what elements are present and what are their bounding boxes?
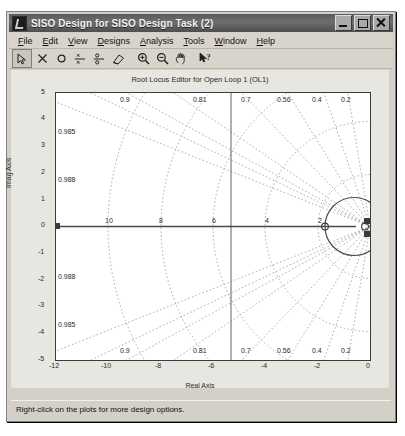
wn-label: 6 xyxy=(212,217,216,224)
damping-label-top: 0.56 xyxy=(277,96,291,103)
damping-label-bottom: 0.2 xyxy=(341,347,351,354)
y-tick-label: -1 xyxy=(38,248,44,255)
menu-label-edit: dit xyxy=(49,36,59,46)
damping-label-left: 0.988 xyxy=(58,176,76,183)
x-tick-label: 0 xyxy=(366,362,370,369)
y-tick-label: 2 xyxy=(41,168,45,175)
root-locus-figure: Root Locus Editor for Open Loop 1 (OL1) … xyxy=(11,70,389,388)
y-tick-label: 3 xyxy=(41,141,45,148)
y-tick-label: -2 xyxy=(38,275,44,282)
open-loop-pole-marker xyxy=(56,223,60,229)
damping-label-bottom: 0.7 xyxy=(241,347,251,354)
damping-label-bottom: 0.9 xyxy=(120,347,130,354)
close-button[interactable] xyxy=(373,15,390,31)
status-bar: Right-click on the plots for more design… xyxy=(11,400,391,417)
wn-label: 10 xyxy=(105,217,113,224)
delete-pole-zero-icon[interactable] xyxy=(109,50,127,67)
zoom-out-icon[interactable] xyxy=(153,50,171,67)
context-help-icon[interactable]: ? xyxy=(197,50,215,67)
damping-label-bottom: 0.81 xyxy=(193,347,207,354)
title-bar: SISO Design for SISO Design Task (2) xyxy=(9,14,393,32)
wn-label: 4 xyxy=(265,217,269,224)
menu-bar: File Edit View Designs Analysis Tools Wi… xyxy=(9,33,393,49)
damping-label-left: 0.988 xyxy=(58,273,76,280)
x-tick-label: -6 xyxy=(208,362,214,369)
add-complex-pole-icon[interactable] xyxy=(71,50,89,67)
menu-label-view: iew xyxy=(74,36,88,46)
menu-item-tools[interactable]: Tools xyxy=(178,35,209,47)
damping-label-top: 0.9 xyxy=(120,96,130,103)
add-real-pole-icon[interactable] xyxy=(33,50,51,67)
open-loop-pole-marker xyxy=(364,231,370,237)
pointer-icon[interactable] xyxy=(12,49,32,68)
menu-label-analysis: nalysis xyxy=(146,36,174,46)
menu-label-help: elp xyxy=(263,36,275,46)
wn-label: 2 xyxy=(318,217,322,224)
add-real-zero-icon[interactable] xyxy=(52,50,70,67)
menu-label-designs: esigns xyxy=(104,36,130,46)
y-tick-label: -4 xyxy=(38,328,44,335)
damping-label-left: 0.985 xyxy=(58,321,76,328)
y-tick-label: 4 xyxy=(41,114,45,121)
chart-title: Root Locus Editor for Open Loop 1 (OL1) xyxy=(11,75,389,84)
siso-design-window: SISO Design for SISO Design Task (2) Fil… xyxy=(6,11,396,422)
damping-label-top: 0.4 xyxy=(312,96,322,103)
y-tick-label: 0 xyxy=(41,221,45,228)
menu-label-tools: ools xyxy=(188,36,205,46)
damping-label-bottom: 0.56 xyxy=(277,347,291,354)
damping-label-bottom: 0.4 xyxy=(312,347,322,354)
menu-item-analysis[interactable]: Analysis xyxy=(135,35,179,47)
x-tick-label: -2 xyxy=(314,362,320,369)
minimize-button[interactable] xyxy=(335,15,352,31)
maximize-button[interactable] xyxy=(354,15,371,31)
damping-label-top: 0.81 xyxy=(193,96,207,103)
y-tick-label: 1 xyxy=(41,195,45,202)
y-tick-label: 5 xyxy=(41,88,45,95)
status-message: Right-click on the plots for more design… xyxy=(11,405,185,414)
y-axis-label: Imag Axis xyxy=(5,158,12,188)
damping-label-top: 0.7 xyxy=(241,96,251,103)
x-axis-label: Real Axis xyxy=(11,382,389,389)
plot-axes[interactable]: 0.9 0.81 0.7 0.56 0.4 0.2 0.9 0.81 0.7 0… xyxy=(55,92,371,361)
window-controls xyxy=(335,15,393,31)
menu-item-view[interactable]: View xyxy=(63,35,92,47)
damping-label-top: 0.2 xyxy=(341,96,351,103)
root-locus-plot xyxy=(56,93,370,360)
tool-bar: ? xyxy=(9,49,393,69)
menu-label-file: ile xyxy=(24,36,33,46)
y-tick-label: -3 xyxy=(38,301,44,308)
menu-item-window[interactable]: Window xyxy=(209,35,251,47)
zoom-in-icon[interactable] xyxy=(134,50,152,67)
wn-label: 8 xyxy=(159,217,163,224)
matlab-figure-icon xyxy=(12,16,27,31)
menu-item-edit[interactable]: Edit xyxy=(38,35,64,47)
window-title: SISO Design for SISO Design Task (2) xyxy=(31,18,213,29)
x-tick-label: -8 xyxy=(155,362,161,369)
y-tick-label: -5 xyxy=(38,355,44,362)
open-loop-zero-marker xyxy=(362,223,369,230)
menu-item-designs[interactable]: Designs xyxy=(92,35,135,47)
x-tick-label: -12 xyxy=(49,362,59,369)
menu-item-help[interactable]: Help xyxy=(251,35,280,47)
x-tick-label: -4 xyxy=(261,362,267,369)
menu-label-window: indow xyxy=(223,36,247,46)
add-complex-zero-icon[interactable] xyxy=(90,50,108,67)
pan-hand-icon[interactable] xyxy=(172,50,190,67)
x-tick-label: -10 xyxy=(101,362,111,369)
damping-label-left: 0.985 xyxy=(58,128,76,135)
menu-item-file[interactable]: File xyxy=(13,35,38,47)
svg-text:?: ? xyxy=(207,53,211,62)
